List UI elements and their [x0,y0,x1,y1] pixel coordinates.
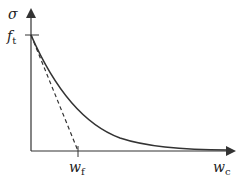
x-axis-label: wc [213,159,231,177]
linear-softening-line [31,35,78,151]
y-axis-label: σ [8,6,18,22]
softening-diagram: σ ft wf wc [0,0,246,183]
softening-curve [31,35,228,150]
ft-label: ft [6,28,16,46]
wf-label: wf [69,159,86,177]
